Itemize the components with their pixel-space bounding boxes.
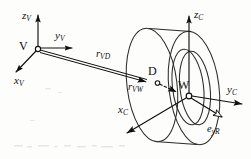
label-point-V: V	[19, 39, 28, 53]
label-yV: yV	[54, 29, 66, 43]
wheel-frame-axes	[127, 16, 242, 133]
label-rVW: rVW	[128, 81, 144, 94]
label-rVD: rVD	[96, 48, 111, 61]
axis-xC-line	[127, 98, 186, 133]
vector-rVD-stroke-lower	[40, 53, 145, 82]
point-W-marker	[186, 93, 192, 99]
label-zV: zV	[21, 9, 32, 23]
paper-specks	[14, 88, 125, 147]
axis-xV-line	[16, 51, 36, 72]
label-zC: zC	[193, 8, 204, 22]
diagram-canvas: zV yV xV V rVD D rVW W zC yC xC eyR	[0, 0, 251, 159]
label-eyR: eyR	[207, 123, 220, 136]
label-point-D: D	[148, 64, 157, 78]
kinematics-diagram: zV yV xV V rVD D rVW W zC yC xC eyR	[0, 0, 251, 159]
point-V-marker	[35, 46, 40, 51]
vector-eyR	[191, 98, 222, 117]
vector-rVD	[40, 50, 146, 82]
vector-rVD-stroke-upper	[41, 50, 147, 79]
point-D-marker	[155, 81, 160, 86]
label-yC: yC	[226, 83, 238, 97]
label-xV: xV	[13, 74, 25, 88]
label-xC: xC	[117, 103, 129, 117]
label-point-W: W	[178, 78, 190, 92]
